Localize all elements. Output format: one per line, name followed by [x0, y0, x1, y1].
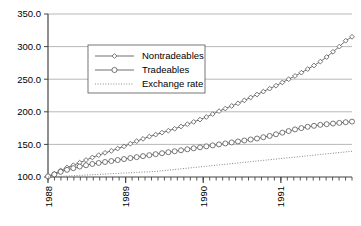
- y-tick-label: 300.0: [17, 41, 41, 52]
- y-axis-ticks: 100.0150.0200.0250.0300.0350.0: [17, 8, 48, 182]
- y-tick-label: 250.0: [17, 74, 41, 85]
- line-chart: 100.0150.0200.0250.0300.0350.01988198919…: [0, 0, 361, 226]
- x-tick-label: 1988: [43, 186, 54, 207]
- legend-label: Exchange rate: [142, 78, 203, 89]
- x-tick-label: 1989: [120, 186, 131, 207]
- y-tick-label: 200.0: [17, 106, 41, 117]
- legend-label: Nontradeables: [142, 50, 204, 61]
- chart-container: 100.0150.0200.0250.0300.0350.01988198919…: [0, 0, 361, 226]
- series-tradeables: [46, 119, 355, 179]
- x-axis-labels: 1988198919901991: [43, 177, 287, 207]
- legend: NontradeablesTradeablesExchange rate: [88, 45, 205, 93]
- y-tick-label: 100.0: [17, 171, 41, 182]
- y-tick-label: 350.0: [17, 8, 41, 19]
- legend-label: Tradeables: [142, 64, 189, 75]
- x-tick-label: 1991: [275, 186, 286, 207]
- y-tick-label: 150.0: [17, 139, 41, 150]
- x-tick-label: 1990: [198, 186, 209, 207]
